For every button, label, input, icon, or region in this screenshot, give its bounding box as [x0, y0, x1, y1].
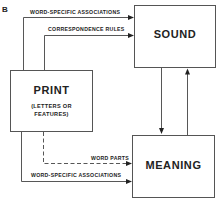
- node-print: PRINT (LETTERS OR FEATURES): [11, 71, 93, 132]
- arrowhead-up-icon: [185, 69, 190, 75]
- edge-print-sound-correspondence: CORRESPONDENCE RULES: [45, 26, 135, 70]
- print-title: PRINT: [34, 84, 70, 96]
- edge-meaning-sound: [185, 69, 190, 136]
- edge-label: CORRESPONDENCE RULES: [48, 26, 125, 32]
- panel-label: B: [2, 5, 8, 14]
- arrowhead-icon: [128, 15, 134, 20]
- arrowhead-down-icon: [159, 128, 164, 134]
- edge-sound-meaning: [159, 68, 164, 134]
- edge-print-sound-word-specific: WORD-SPECIFIC ASSOCIATIONS: [24, 9, 135, 70]
- meaning-title: MEANING: [145, 159, 201, 171]
- print-subtitle-line2: FEATURES): [34, 111, 68, 117]
- print-box: [11, 71, 93, 132]
- node-meaning: MEANING: [133, 136, 215, 198]
- arrowhead-icon: [126, 161, 132, 166]
- node-sound: SOUND: [135, 6, 216, 68]
- edge-label: WORD-SPECIFIC ASSOCIATIONS: [30, 9, 120, 15]
- arrowhead-icon: [126, 179, 132, 184]
- reading-model-diagram: B PRINT (LETTERS OR FEATURES) SOUND MEAN…: [0, 0, 220, 204]
- edge-print-meaning-word-parts: WORD PARTS: [44, 132, 133, 166]
- edge-label: WORD PARTS: [91, 155, 129, 161]
- sound-title: SOUND: [154, 28, 197, 40]
- edge-label: WORD-SPECIFIC ASSOCIATIONS: [31, 172, 121, 178]
- print-subtitle-line1: (LETTERS OR: [31, 103, 72, 109]
- arrowhead-icon: [128, 33, 134, 38]
- diagram-canvas: B PRINT (LETTERS OR FEATURES) SOUND MEAN…: [0, 0, 220, 204]
- edge-line: [45, 36, 133, 71]
